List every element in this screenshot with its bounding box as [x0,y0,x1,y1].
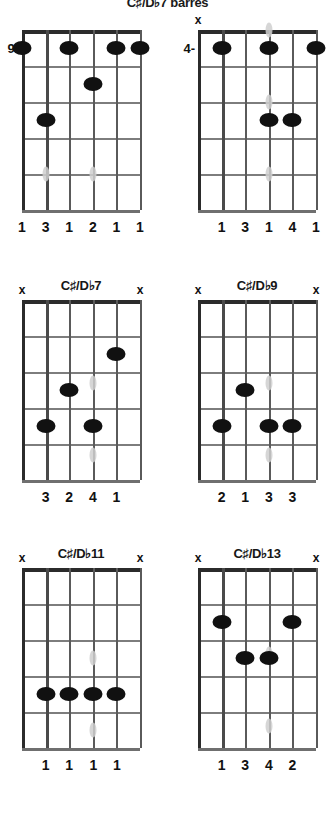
fret-line [198,712,316,714]
fret-inlay-marker [265,447,272,462]
fret-line [198,66,316,68]
fret-line [22,66,140,68]
muted-string-marker: x [195,552,202,564]
string-6 [22,300,25,480]
nut-bar [22,568,140,572]
string-4 [245,30,247,210]
fret-line [22,336,140,338]
chord-diagram: x4-13141 [198,30,316,250]
fingering-number: 1 [112,490,120,504]
muted-string-marker: x [19,284,26,296]
fingering-number: 2 [65,490,73,504]
chord-name-label: C♯/D♭9 [198,278,316,293]
finger-dot [259,113,278,127]
fret-inlay-marker [89,167,96,182]
fret-line [198,372,316,374]
fret-inlay-marker [265,167,272,182]
finger-dot [107,687,126,701]
chord-diagram: C♯/D♭11xx1111 [22,568,140,788]
finger-dot [83,77,102,91]
fret-line [198,336,316,338]
finger-dot [107,41,126,55]
top-fret-bar [198,30,316,34]
fingering-number: 4 [288,220,296,234]
fingering-number: 1 [218,758,226,772]
finger-dot [131,41,150,55]
string-5 [46,568,49,748]
chord-chart-page: C♯/D♭7 barres 9-131211x4-13141C♯/D♭7xx32… [0,0,335,820]
string-6 [198,30,201,210]
fingering-number: 1 [241,490,249,504]
finger-dot [212,615,231,629]
fret-line [198,640,316,642]
string-2 [292,300,294,480]
fingering-number: 3 [241,220,249,234]
fingering-number: 1 [89,758,96,772]
string-2 [116,30,118,210]
fret-line [22,372,140,374]
string-2 [116,300,118,480]
fret-line [22,444,140,446]
fret-inlay-marker [89,723,96,738]
string-1 [316,568,318,748]
fingering-number: 1 [65,758,73,772]
muted-string-marker: x [19,552,26,564]
string-1 [140,300,142,480]
top-fret-bar [22,30,140,34]
finger-dot [83,687,102,701]
fret-inlay-marker [265,719,272,734]
finger-dot [259,41,278,55]
string-6 [22,568,25,748]
string-5 [46,300,49,480]
page-title: C♯/D♭7 barres [0,0,335,10]
fingering-number: 2 [218,490,226,504]
chord-name-label: C♯/D♭13 [198,546,316,561]
muted-string-marker: x [313,552,320,564]
fret-line [198,444,316,446]
string-1 [316,300,318,480]
finger-dot [60,383,79,397]
muted-string-marker: x [195,14,202,26]
finger-dot [259,419,278,433]
fingering-number: 1 [65,220,73,234]
fingering-number: 3 [241,758,249,772]
nut-bar [198,300,316,304]
finger-dot [36,419,55,433]
fingering-number: 2 [89,220,97,234]
fret-line [198,604,316,606]
fret-inlay-marker [265,95,272,110]
finger-dot [307,41,326,55]
chord-diagram: C♯/D♭9xx2133 [198,300,316,520]
string-6 [198,568,201,748]
finger-dot [60,41,79,55]
fret-inlay-marker [89,651,96,666]
fingering-number: 1 [265,220,273,234]
fret-position-marker: 4- [183,41,195,56]
fingering-number: 1 [18,220,26,234]
fret-inlay-marker [265,23,272,38]
fingering-number: 1 [42,758,50,772]
fret-position-marker: 9- [7,41,19,56]
fret-line [22,676,140,678]
muted-string-marker: x [137,284,144,296]
finger-dot [83,419,102,433]
fret-line [22,604,140,606]
chord-diagram: C♯/D♭13xx1342 [198,568,316,788]
fingering-number: 1 [112,220,120,234]
muted-string-marker: x [137,552,144,564]
chord-diagram: C♯/D♭7xx3241 [22,300,140,520]
fingering-number: 1 [113,758,120,772]
fret-line [198,174,316,176]
fingering-number: 3 [288,490,296,504]
muted-string-marker: x [313,284,320,296]
fret-inlay-marker [89,447,96,462]
string-5 [222,30,225,210]
finger-dot [212,419,231,433]
fret-line [22,174,140,176]
finger-dot [283,113,302,127]
fret-line [198,676,316,678]
finger-dot [107,347,126,361]
fingering-number: 3 [42,490,50,504]
finger-dot [212,41,231,55]
fretboard-bottom-rail [22,748,140,751]
